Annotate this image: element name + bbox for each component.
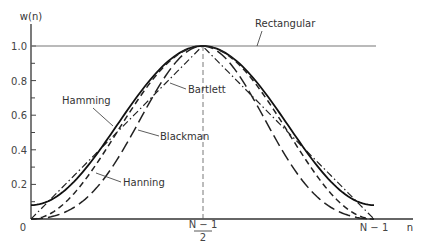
x-tick-mid-denominator: 2 bbox=[200, 232, 206, 243]
label-blackman: Blackman bbox=[160, 131, 209, 142]
label-rectangular: Rectangular bbox=[255, 18, 316, 29]
x-tick-mid: N − 1 2 bbox=[189, 219, 218, 243]
arrow-blackman bbox=[138, 130, 159, 136]
y-tick-label-0.6: 0.6 bbox=[11, 110, 27, 121]
x-axis-label: n bbox=[407, 222, 413, 233]
window-functions-chart: 1.0 0.8 0.6 0.4 0.2 0 w(n) N − 1 2 N − 1… bbox=[0, 0, 421, 251]
y-ticks bbox=[31, 46, 36, 202]
arrow-rectangular bbox=[257, 31, 262, 46]
arrow-bartlett bbox=[170, 83, 186, 89]
label-hamming: Hamming bbox=[62, 95, 111, 106]
y-tick-label-1.0: 1.0 bbox=[11, 41, 27, 52]
y-tick-label-0.4: 0.4 bbox=[11, 145, 27, 156]
y-tick-label-0.8: 0.8 bbox=[11, 76, 27, 87]
y-tick-label-0.2: 0.2 bbox=[11, 179, 27, 190]
label-bartlett: Bartlett bbox=[188, 84, 226, 95]
label-hanning: Hanning bbox=[123, 177, 165, 188]
x-tick-mid-numerator: N − 1 bbox=[189, 219, 218, 230]
arrow-hanning bbox=[96, 173, 121, 182]
x-tick-end-label: N − 1 bbox=[360, 222, 389, 233]
origin-label: 0 bbox=[20, 222, 26, 233]
arrow-hamming bbox=[93, 108, 113, 126]
series-hamming bbox=[31, 46, 374, 205]
y-axis-label: w(n) bbox=[20, 11, 42, 22]
